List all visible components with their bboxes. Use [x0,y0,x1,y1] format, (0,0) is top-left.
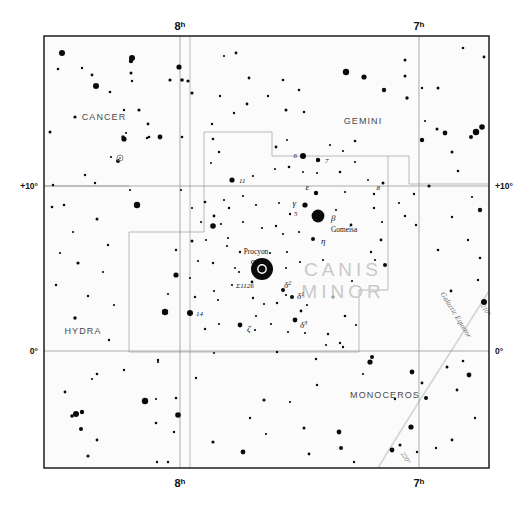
star-point [238,271,240,273]
star-point [191,207,193,209]
star-point [286,139,288,141]
star-point [287,331,289,333]
star-point [304,332,306,334]
star-point [270,323,272,325]
star-point [437,87,440,90]
star-point [239,251,241,253]
star-point [300,310,303,313]
star-point [148,136,151,139]
star-point [52,184,54,186]
star-point [339,342,341,344]
star-point [80,410,84,414]
star-point [367,179,369,181]
star-point [298,89,301,92]
star-point [285,109,288,112]
feature-label-minor: MINOR [301,281,384,302]
star-point [70,414,74,418]
star-point [173,272,178,277]
star-point [299,261,301,263]
flamsteed-label-7: 7 [325,157,329,165]
star-point [197,260,199,262]
star-point [55,284,57,286]
star-point [285,294,287,296]
star-point [267,95,269,97]
flamsteed-label-8: 8 [377,184,381,192]
star-point [274,168,276,170]
star-point [421,382,424,385]
star-point [168,78,171,81]
star-point [63,204,66,207]
star-point [213,290,215,292]
star-point [303,111,306,114]
bayer-label-gamma: γ [292,198,296,208]
star-point [261,227,263,229]
star-point [416,451,418,453]
star-point [218,151,220,153]
star-point [242,195,244,197]
ra-labels-bottom: 8h 7h [174,477,424,489]
star-point [210,162,212,164]
star-point [353,461,355,463]
star-point [311,237,315,241]
star-point [381,221,383,223]
star-point [81,67,83,69]
star-point [129,189,131,191]
star-point [147,123,150,126]
star-point [73,115,76,118]
star-point [342,346,344,348]
star-point [176,64,181,69]
star-point [451,439,454,442]
star-point [212,138,215,141]
bayer-label-epsilon: ε [305,182,309,192]
star-point [212,262,214,264]
star-point [226,245,228,247]
star-point [220,223,222,225]
star-point [252,297,254,299]
star-point [290,295,294,299]
star-point [469,135,473,139]
star-label-gomeisa: Gomeisa [331,225,358,234]
star-point [73,411,79,417]
star-point [263,303,265,305]
star-chart: Galactic Equator 210° 220° [0,0,532,513]
star-point [200,221,202,223]
star-point [451,151,454,154]
star-point [282,233,284,235]
star-point [180,189,182,191]
star-point [390,448,395,453]
star-point [93,83,99,89]
star-point [228,207,230,209]
star-point [382,182,385,185]
star-point [298,231,300,233]
star-point [76,261,79,264]
star-point [204,201,207,204]
star-point [87,295,89,297]
star-point [57,68,60,71]
star-point [205,239,207,241]
star-point [107,244,109,246]
star-point [408,424,413,429]
star-point [167,293,169,295]
star-point [456,389,459,392]
star-point [276,351,278,353]
star-point [288,166,291,169]
star-point [457,170,460,173]
star-point [343,69,349,75]
star-point [329,144,331,146]
ra-tick-7h-top: 7h [413,20,424,32]
star-point [483,56,486,59]
star-point [217,299,219,301]
open-cluster-core [119,157,121,159]
star-point [84,174,86,176]
bayer-label-eta: η [321,236,326,246]
star-point [300,153,306,159]
flamsteed-label-11: 11 [239,177,245,185]
flamsteed-label-5: 5 [294,210,298,218]
dec-tick-plus10-left: +10° [20,181,38,191]
star-point [110,156,112,158]
star-point [303,427,306,430]
constellation-label-monoceros: MONOCEROS [350,390,420,400]
star-point [479,124,485,130]
star-point [235,52,238,55]
star-point [289,401,291,403]
